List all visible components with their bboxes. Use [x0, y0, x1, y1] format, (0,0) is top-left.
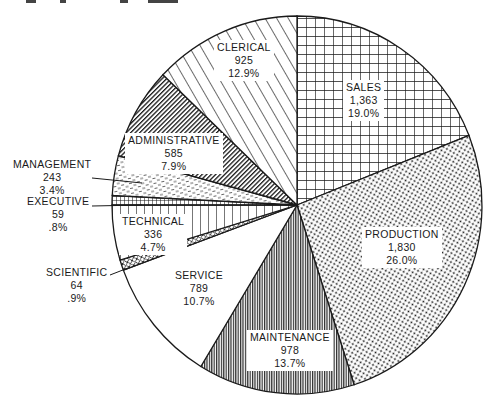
label-maintenance: MAINTENANCE 978 13.7% [247, 330, 333, 371]
label-service: SERVICE 789 10.7% [172, 268, 226, 309]
label-scientific: SCIENTIFIC 64 .9% [43, 265, 110, 306]
label-sales: SALES 1,363 19.0% [343, 80, 384, 121]
label-management: MANAGEMENT 243 3.4% [10, 157, 94, 198]
label-administrative: ADMINISTRATIVE 585 7.9% [125, 133, 223, 174]
label-technical: TECHNICAL 336 4.7% [119, 214, 187, 255]
label-production: PRODUCTION 1,830 26.0% [362, 227, 442, 268]
label-clerical: CLERICAL 925 12.9% [214, 40, 274, 81]
label-executive: EXECUTIVE 59 .8% [24, 194, 92, 235]
